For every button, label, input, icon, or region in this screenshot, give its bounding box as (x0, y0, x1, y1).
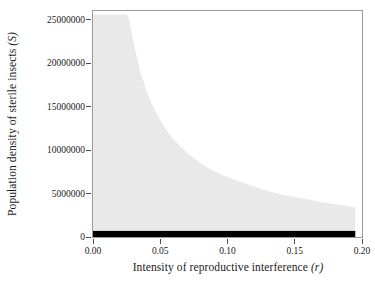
y-tick-label: 15000000 (47, 102, 85, 112)
light-gray-eradication-region (93, 14, 355, 237)
y-tick-label: 25000000 (47, 15, 85, 25)
y-tick-label: 5000000 (52, 189, 85, 199)
x-tick-label: 0.10 (208, 246, 248, 257)
chart-figure: Population density of sterile insects (S… (0, 0, 375, 298)
x-tick-mark (93, 239, 94, 244)
x-axis-title-symbol: (r) (311, 261, 323, 273)
y-tick-mark (86, 106, 91, 107)
y-tick-mark (86, 63, 91, 64)
y-tick-mark (86, 237, 91, 238)
y-tick-label: 0 (80, 232, 85, 242)
y-tick-mark (86, 193, 91, 194)
y-tick-label: 20000000 (47, 58, 85, 68)
x-tick-mark (160, 239, 161, 244)
x-tick-mark (362, 239, 363, 244)
x-tick-label: 0.00 (73, 246, 113, 257)
y-axis-title: Population density of sterile insects (S… (4, 5, 20, 243)
x-axis-title: Intensity of reproductive interference (… (92, 261, 364, 273)
y-tick-label: 10000000 (47, 145, 85, 155)
black-baseline-band (93, 231, 355, 237)
data-svg (93, 11, 362, 237)
data-layer (93, 11, 362, 237)
y-tick-mark (86, 19, 91, 20)
x-axis-title-text: Intensity of reproductive interference (133, 261, 308, 273)
plot-area (92, 10, 363, 238)
y-axis-title-symbol: (S) (6, 32, 18, 46)
x-tick-mark (227, 239, 228, 244)
x-tick-label: 0.20 (342, 246, 375, 257)
x-tick-label: 0.15 (275, 246, 315, 257)
x-tick-mark (294, 239, 295, 244)
x-tick-label: 0.05 (140, 246, 180, 257)
y-axis-title-text: Population density of sterile insects (6, 49, 18, 216)
y-tick-mark (86, 150, 91, 151)
